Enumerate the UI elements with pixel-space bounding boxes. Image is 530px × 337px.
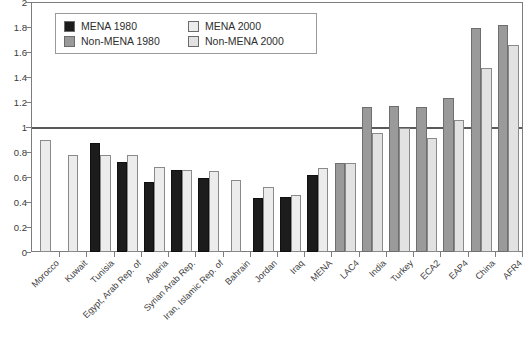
bar <box>427 138 438 252</box>
bar <box>231 180 242 253</box>
bar <box>291 195 302 253</box>
x-tick-label: MENA <box>308 258 333 283</box>
y-tick-label: 2 <box>22 0 27 7</box>
legend-swatch-icon <box>188 36 199 47</box>
x-tick-label: Turkey <box>389 258 415 284</box>
bar <box>471 28 482 252</box>
bar <box>154 167 165 252</box>
x-tick-label: LAC4 <box>338 258 361 281</box>
bar <box>144 182 155 252</box>
x-tick-label-text: China <box>473 258 497 282</box>
x-axis-labels: MoroccoKuwaitTunisiaEgypt, Arab Rep. ofA… <box>0 252 530 337</box>
bar <box>481 68 492 252</box>
bar <box>171 170 182 253</box>
x-tick-label-text: Jordan <box>253 258 280 285</box>
bar-group <box>495 3 522 252</box>
bar <box>318 168 329 252</box>
x-tick-label-text: Bahrain <box>223 258 252 287</box>
bar <box>182 170 193 253</box>
bar <box>508 45 519 253</box>
x-tick-label: Iraq <box>288 258 306 276</box>
bar <box>263 187 274 252</box>
legend-label: Non-MENA 1980 <box>81 36 160 47</box>
legend-item-non-mena-2000: Non-MENA 2000 <box>188 36 284 47</box>
x-tick-label: ECA2 <box>419 258 443 282</box>
bar-group <box>413 3 440 252</box>
bar <box>40 140 51 253</box>
bar <box>454 120 465 253</box>
legend-item-mena-2000: MENA 2000 <box>188 21 261 32</box>
legend-row-1: MENA 1980 MENA 2000 <box>64 19 308 34</box>
bar <box>90 143 101 252</box>
x-tick-label: Kuwait <box>62 258 88 284</box>
bar <box>307 175 318 253</box>
bar <box>362 107 373 252</box>
legend-label: MENA 1980 <box>81 21 137 32</box>
bar <box>253 198 264 252</box>
bar-group <box>440 3 467 252</box>
bar <box>443 98 454 252</box>
bar <box>416 107 427 252</box>
legend-item-mena-1980: MENA 1980 <box>64 21 188 32</box>
x-tick-label-text: MENA <box>308 258 333 283</box>
bar <box>498 25 509 253</box>
bar <box>389 106 400 252</box>
chart-figure: 21.81.61.41.210.80.60.40.20 MoroccoKuwai… <box>0 0 530 337</box>
legend-row-2: Non-MENA 1980 Non-MENA 2000 <box>64 34 308 49</box>
bar <box>68 155 79 253</box>
legend-label: Non-MENA 2000 <box>205 36 284 47</box>
x-tick-label-text: AFR4 <box>501 258 524 281</box>
bar <box>345 163 356 252</box>
chart-legend: MENA 1980 MENA 2000 Non-MENA 1980 Non-ME… <box>55 13 317 54</box>
bar-group <box>468 3 495 252</box>
bar <box>280 197 291 252</box>
bar-group <box>359 3 386 252</box>
x-tick-label-text: Kuwait <box>62 258 88 284</box>
x-tick-label-text: Iraq <box>288 258 306 276</box>
bar-group <box>386 3 413 252</box>
x-tick-label: Jordan <box>253 258 280 285</box>
x-tick-label: China <box>473 258 497 282</box>
bar-group <box>331 3 358 252</box>
x-tick-label-text: EAP4 <box>446 258 469 281</box>
bar <box>198 178 209 252</box>
x-tick-label: India <box>367 258 388 279</box>
x-tick-label-text: LAC4 <box>338 258 361 281</box>
bar <box>399 128 410 252</box>
x-tick-label: AFR4 <box>501 258 524 281</box>
bar <box>100 155 111 253</box>
x-tick-label: EAP4 <box>446 258 469 281</box>
legend-swatch-icon <box>188 21 199 32</box>
x-tick-label: Bahrain <box>223 258 252 287</box>
legend-item-non-mena-1980: Non-MENA 1980 <box>64 36 188 47</box>
bar <box>335 163 346 252</box>
bar <box>209 171 220 252</box>
legend-label: MENA 2000 <box>205 21 261 32</box>
bar <box>117 162 128 252</box>
x-tick-label: Morocco <box>30 258 61 289</box>
bar <box>372 133 383 252</box>
y-axis: 21.81.61.41.210.80.60.40.20 <box>0 0 31 254</box>
x-tick-label-text: India <box>367 258 388 279</box>
bar <box>127 155 138 253</box>
legend-swatch-icon <box>64 21 75 32</box>
x-tick-label-text: ECA2 <box>419 258 443 282</box>
legend-swatch-icon <box>64 36 75 47</box>
x-tick-label-text: Turkey <box>389 258 415 284</box>
x-tick-label-text: Morocco <box>30 258 61 289</box>
